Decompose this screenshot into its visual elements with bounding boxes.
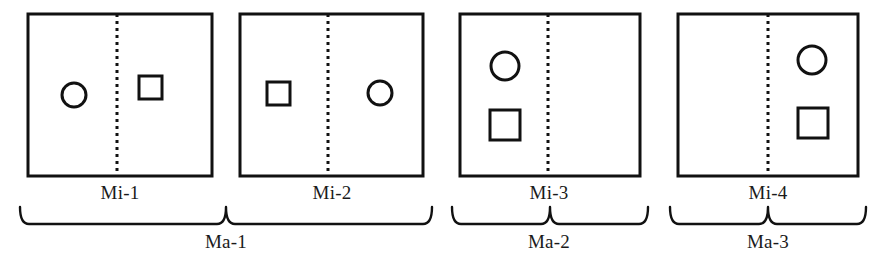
token-circle <box>798 46 826 74</box>
figure-root: Mi-1Mi-2Mi-3Mi-4Ma-1Ma-2Ma-3 <box>0 0 885 274</box>
minor-label-2: Mi-2 <box>313 182 352 203</box>
major-label-3: Ma-3 <box>747 231 789 252</box>
token-circle <box>368 81 392 105</box>
panels-layer <box>28 14 858 176</box>
panel-border <box>460 14 640 176</box>
token-square <box>267 82 290 105</box>
panel-border <box>678 14 858 176</box>
panel-2 <box>240 14 423 176</box>
labels-layer: Mi-1Mi-2Mi-3Mi-4Ma-1Ma-2Ma-3 <box>101 182 789 252</box>
token-square <box>490 110 520 140</box>
panel-4 <box>678 14 858 176</box>
panel-1 <box>28 14 212 176</box>
token-circle <box>62 83 86 107</box>
major-group-braces-layer <box>20 207 866 224</box>
minor-label-1: Mi-1 <box>101 182 140 203</box>
minor-label-4: Mi-4 <box>749 182 788 203</box>
panel-border <box>28 14 212 176</box>
grouping-diagram: Mi-1Mi-2Mi-3Mi-4Ma-1Ma-2Ma-3 <box>0 0 885 274</box>
major-label-2: Ma-2 <box>528 231 570 252</box>
major-label-1: Ma-1 <box>205 231 247 252</box>
token-square <box>139 76 162 99</box>
token-circle <box>491 52 519 80</box>
group-ma-2-brace <box>452 207 648 224</box>
group-ma-3-brace <box>670 207 866 224</box>
token-square <box>798 108 828 138</box>
group-ma-1-brace <box>20 207 432 224</box>
minor-label-3: Mi-3 <box>530 182 569 203</box>
panel-3 <box>460 14 640 176</box>
